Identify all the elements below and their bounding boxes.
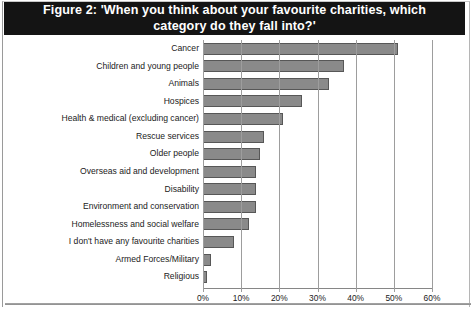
bar-track xyxy=(203,181,470,199)
category-label: Children and young people xyxy=(4,62,203,71)
bar-row: Religious xyxy=(4,268,470,286)
bar-track xyxy=(203,145,470,163)
bar-track xyxy=(203,163,470,181)
axis-gridline xyxy=(394,40,395,288)
axis-gridline xyxy=(432,40,433,288)
category-label: Hospices xyxy=(4,97,203,106)
bar xyxy=(203,60,344,72)
bar xyxy=(203,148,260,160)
axis-gridline xyxy=(241,40,242,288)
category-label: Cancer xyxy=(4,44,203,53)
axis-tick-label: 30% xyxy=(309,293,326,303)
figure-title-bar: Figure 2: 'When you think about your fav… xyxy=(4,2,465,35)
axis-tick-label: 10% xyxy=(233,293,250,303)
bar-row: Cancer xyxy=(4,40,470,58)
bar-track xyxy=(203,251,470,269)
bar-track xyxy=(203,216,470,234)
axis-tick xyxy=(394,288,395,292)
axis-tick-label: 50% xyxy=(385,293,402,303)
bar-track xyxy=(203,198,470,216)
bar-row: Animals xyxy=(4,75,470,93)
bar-track xyxy=(203,75,470,93)
bar-row: I don't have any favourite charities xyxy=(4,233,470,251)
bar xyxy=(203,43,398,55)
bar xyxy=(203,201,256,213)
bar-row: Homelessness and social welfare xyxy=(4,216,470,234)
category-label: Older people xyxy=(4,149,203,158)
bar xyxy=(203,78,329,90)
bar-row: Environment and conservation xyxy=(4,198,470,216)
category-label: Animals xyxy=(4,79,203,88)
bar xyxy=(203,254,211,266)
bar xyxy=(203,236,234,248)
bar xyxy=(203,166,256,178)
bar-row: Rescue services xyxy=(4,128,470,146)
axis-gridline xyxy=(279,40,280,288)
category-label: Religious xyxy=(4,272,203,281)
bar xyxy=(203,183,256,195)
category-label: Health & medical (excluding cancer) xyxy=(4,114,203,123)
axis-tick xyxy=(279,288,280,292)
category-label: Rescue services xyxy=(4,132,203,141)
bar-track xyxy=(203,58,470,76)
axis-tick-label: 40% xyxy=(347,293,364,303)
bar-row: Disability xyxy=(4,181,470,199)
axis-tick-label: 20% xyxy=(271,293,288,303)
axis-gridline xyxy=(318,40,319,288)
category-label: Overseas aid and development xyxy=(4,167,203,176)
category-label: I don't have any favourite charities xyxy=(4,237,203,246)
axis-tick-label: 0% xyxy=(197,293,209,303)
plot-area: CancerChildren and young peopleAnimalsHo… xyxy=(4,36,470,302)
bar xyxy=(203,113,283,125)
x-axis: 0%10%20%30%40%50%60% xyxy=(203,288,470,308)
bar-chart: CancerChildren and young peopleAnimalsHo… xyxy=(4,40,470,288)
bar-row: Hospices xyxy=(4,93,470,111)
axis-gridline xyxy=(356,40,357,288)
bar-row: Overseas aid and development xyxy=(4,163,470,181)
axis-tick xyxy=(318,288,319,292)
axis-tick xyxy=(432,288,433,292)
axis-tick xyxy=(203,288,204,292)
axis-tick xyxy=(356,288,357,292)
bar-track xyxy=(203,128,470,146)
axis-tick xyxy=(241,288,242,292)
bar-row: Health & medical (excluding cancer) xyxy=(4,110,470,128)
bar-track xyxy=(203,110,470,128)
bar-row: Children and young people xyxy=(4,58,470,76)
bar-track xyxy=(203,40,470,58)
bar-track xyxy=(203,93,470,111)
category-label: Armed Forces/Military xyxy=(4,255,203,264)
bar-row: Armed Forces/Military xyxy=(4,251,470,269)
bar xyxy=(203,95,302,107)
page-title: Figure 2: 'When you think about your fav… xyxy=(43,3,426,34)
figure-container: Figure 2: 'When you think about your fav… xyxy=(0,0,475,314)
bar-track xyxy=(203,268,470,286)
page-bottom-rule xyxy=(5,303,471,305)
axis-tick-label: 60% xyxy=(424,293,441,303)
axis-gridline xyxy=(203,40,204,288)
bar-track xyxy=(203,233,470,251)
category-label: Disability xyxy=(4,185,203,194)
bar xyxy=(203,131,264,143)
category-label: Environment and conservation xyxy=(4,202,203,211)
bar-row: Older people xyxy=(4,145,470,163)
category-label: Homelessness and social welfare xyxy=(4,220,203,229)
